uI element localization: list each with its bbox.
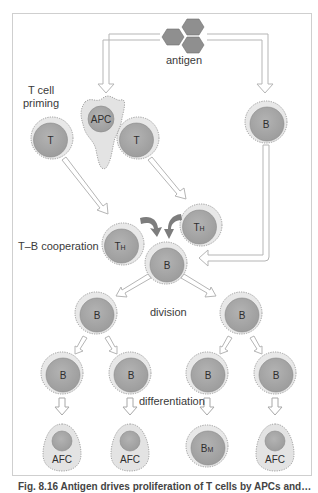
b-cell-naive-label: B [263, 119, 270, 130]
division-label: division [150, 306, 187, 318]
b-cell-activated-label: B [164, 260, 171, 271]
afc-cell-1-label: AFC [52, 454, 72, 465]
t-cell-priming-label: T cell [28, 84, 54, 96]
th-cell-left: TH [102, 223, 144, 265]
b-cell-division-right-label: B [239, 310, 246, 321]
figure-caption: Fig. 8.16 Antigen drives proliferation o… [18, 481, 311, 493]
t-cell-left-label: T [47, 135, 53, 146]
b-cell-row-3: B [186, 352, 228, 394]
b-cell-row-4-label: B [273, 370, 280, 381]
tb-cooperation-label: T–B cooperation [18, 240, 99, 252]
b-cell-row-1: B [41, 352, 83, 394]
b-cell-row-1-label: B [60, 370, 67, 381]
t-cell-right-label: T [133, 135, 139, 146]
t-cell-left: T [31, 117, 73, 159]
afc-cell-2-label: AFC [120, 454, 140, 465]
th-cell-right: TH [180, 204, 222, 246]
differentiation-label: differentiation [139, 395, 205, 407]
memory-b-cell: BM [186, 425, 228, 467]
b-cell-row-2: B [109, 352, 151, 394]
b-cell-naive: B [245, 101, 287, 143]
t-cell-priming-label-2: priming [23, 97, 59, 109]
afc-cell-4-label: AFC [265, 454, 285, 465]
b-cell-division-right: B [220, 292, 262, 334]
antigen-label: antigen [166, 54, 202, 66]
b-cell-row-3-label: B [205, 370, 212, 381]
b-cell-division-left-label: B [94, 310, 101, 321]
b-cell-division-left: B [75, 292, 117, 334]
b-cell-row-4: B [254, 352, 296, 394]
b-cell-row-2-label: B [128, 370, 135, 381]
t-cell-right: T [117, 117, 159, 159]
apc-label: APC [91, 114, 112, 125]
